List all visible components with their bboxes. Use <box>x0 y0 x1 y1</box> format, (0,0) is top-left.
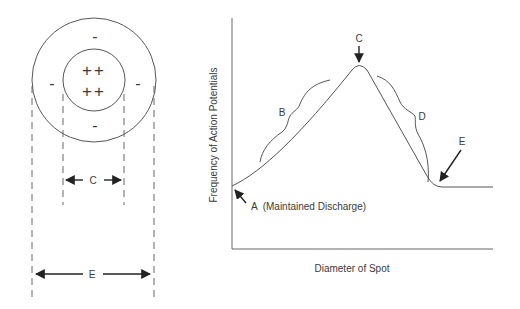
bracket-b <box>260 80 330 162</box>
response-curve <box>232 66 493 188</box>
surround-sign-top: - <box>92 28 97 45</box>
label-d: D <box>418 111 425 122</box>
c-dimension-label: C <box>89 175 96 186</box>
bracket-d <box>377 76 428 182</box>
label-b: B <box>279 107 286 118</box>
diagram-canvas: ++ ++ - - - - C E Frequency of Action Po… <box>0 0 520 309</box>
a-arrow <box>235 190 246 203</box>
surround-sign-left: - <box>49 75 54 92</box>
e-plateau-arrow <box>440 150 461 181</box>
x-axis-label: Diameter of Spot <box>314 263 389 274</box>
label-c: C <box>355 33 362 44</box>
label-e: E <box>459 136 466 147</box>
label-a-maintained-discharge: A (Maintained Discharge) <box>251 201 366 212</box>
surround-sign-right: - <box>135 75 140 92</box>
center-circle <box>63 49 125 111</box>
receptive-field: ++ ++ - - - - C E <box>32 18 156 300</box>
surround-sign-bottom: - <box>92 117 97 134</box>
y-axis-label: Frequency of Action Potentials <box>208 67 219 202</box>
center-sign-row-2: ++ <box>82 82 106 101</box>
e-dimension-label: E <box>89 269 96 280</box>
center-sign-row-1: ++ <box>82 61 106 80</box>
response-graph: Frequency of Action Potentials Diameter … <box>208 18 493 274</box>
